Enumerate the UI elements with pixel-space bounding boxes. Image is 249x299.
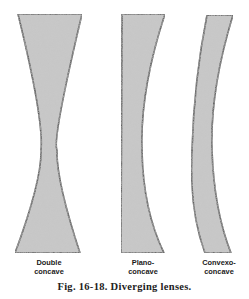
- figure-caption: Fig. 16-18. Diverging lenses.: [0, 281, 249, 292]
- plano-concave-label-line1: Plano-: [121, 258, 165, 267]
- double-concave-label-line2: concave: [28, 267, 70, 276]
- convexo-concave-lens-shape: [192, 15, 233, 253]
- lens-diagram: [0, 0, 249, 299]
- plano-concave-lens: [121, 14, 165, 253]
- double-concave-lens-shape: [15, 14, 82, 253]
- convexo-concave-label-line1: Convexo-: [196, 258, 242, 267]
- plano-concave-lens-shape: [121, 14, 165, 253]
- plano-concave-label: Plano- concave: [121, 258, 165, 276]
- plano-concave-label-line2: concave: [121, 267, 165, 276]
- double-concave-label: Double concave: [28, 258, 70, 276]
- double-concave-label-line1: Double: [28, 258, 70, 267]
- convexo-concave-label: Convexo- concave: [196, 258, 242, 276]
- convexo-concave-label-line2: concave: [196, 267, 242, 276]
- diverging-lenses-figure: Double concave Plano- concave Convexo- c…: [0, 0, 249, 299]
- convexo-concave-lens: [192, 15, 233, 253]
- double-concave-lens: [15, 14, 82, 253]
